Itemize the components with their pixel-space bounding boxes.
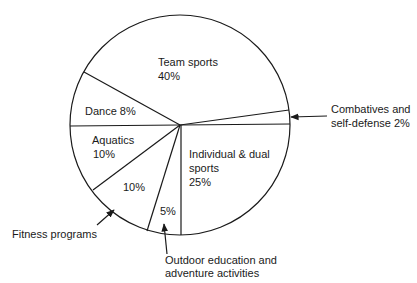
callout-combatives: Combatives and xyxy=(331,103,411,115)
label-team-sports: Team sports xyxy=(158,56,218,68)
label-aquatics: Aquatics xyxy=(92,134,135,146)
callout-outdoor-2: adventure activities xyxy=(165,267,260,279)
pie-chart: Team sports 40% Dance 8% Aquatics 10% 10… xyxy=(0,0,417,283)
callout-fitness: Fitness programs xyxy=(12,228,97,240)
callout-outdoor: Outdoor education and xyxy=(165,254,277,266)
label-dance: Dance 8% xyxy=(85,105,136,117)
label-outdoor-pct: 5% xyxy=(160,205,176,217)
label-individual-2: sports xyxy=(189,162,219,174)
label-individual-pct: 25% xyxy=(189,176,211,188)
callout-combatives-2: self-defense 2% xyxy=(331,117,410,129)
label-aquatics-pct: 10% xyxy=(93,148,115,160)
label-team-sports-pct: 40% xyxy=(158,70,180,82)
arrow-combatives xyxy=(291,116,327,117)
label-fitness-pct: 10% xyxy=(123,181,145,193)
arrow-fitness xyxy=(97,210,114,225)
label-individual: Individual & dual xyxy=(189,148,270,160)
